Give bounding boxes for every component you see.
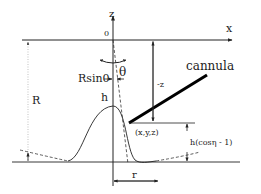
r-sin-theta-label: Rsin0 [78, 72, 110, 85]
r-label: r [132, 169, 137, 180]
R-label: R [32, 94, 41, 107]
inclined-dashed-line [113, 40, 128, 164]
cannula-geometry-diagram: x z 0 θ Rsin0 h R cannula -z (x,y,z) h(c… [0, 0, 261, 194]
cannula-label: cannula [186, 59, 234, 73]
theta-label: θ [119, 65, 126, 79]
x-axis-label: x [226, 22, 233, 35]
cannula [129, 75, 207, 123]
minus-z-label: -z [157, 80, 164, 89]
dashed-surface-right [156, 152, 200, 161]
h-label: h [101, 91, 108, 104]
origin-label: 0 [104, 29, 109, 38]
dashed-surface-left [20, 150, 68, 161]
h-cos-eta-label: h(cosη - 1) [190, 138, 232, 147]
z-axis-label: z [109, 8, 114, 19]
point-label: (x,y,z) [135, 128, 159, 137]
